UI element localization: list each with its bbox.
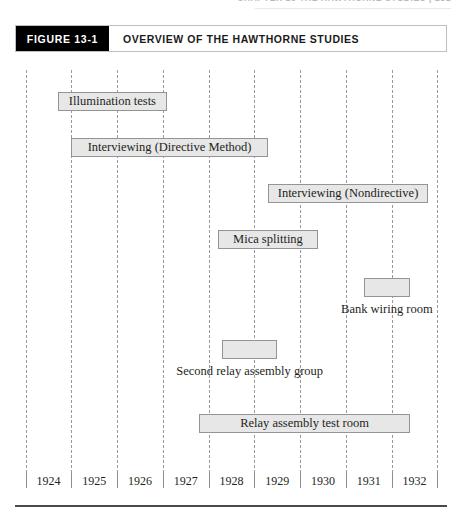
timeline-bar: [364, 278, 410, 297]
timeline-bar: Mica splitting: [218, 230, 319, 249]
timeline-bar-label: Second relay assembly group: [110, 365, 390, 378]
bottom-rule: [15, 505, 447, 507]
timeline-bar: Illumination tests: [58, 92, 168, 111]
axis-year-label: 1931: [346, 474, 392, 488]
axis-year-label: 1928: [209, 474, 255, 488]
figure-number-tag: FIGURE 13-1: [16, 26, 109, 51]
timeline-bar: Relay assembly test room: [199, 414, 409, 433]
page-running-header-text: CHAPTER 13 THE HAWTHORNE STUDIES | 281: [237, 0, 451, 3]
year-axis: 192419251926192719281929193019311932: [0, 473, 465, 491]
timeline-bar: [222, 340, 277, 359]
figure-title: OVERVIEW OF THE HAWTHORNE STUDIES: [109, 26, 446, 51]
axis-year-label: 1926: [117, 474, 163, 488]
timeline-bar-label: Relay assembly test room: [240, 417, 369, 430]
timeline-bar-label: Illumination tests: [69, 95, 156, 108]
chart-bars: Illumination testsInterviewing (Directiv…: [0, 70, 465, 495]
timeline-chart: Illumination testsInterviewing (Directiv…: [0, 70, 465, 495]
axis-year-label: 1927: [163, 474, 209, 488]
timeline-bar-label: Interviewing (Directive Method): [88, 141, 252, 154]
axis-year-label: 1929: [254, 474, 300, 488]
axis-year-label: 1924: [26, 474, 72, 488]
axis-year-label: 1925: [71, 474, 117, 488]
axis-year-label: 1932: [392, 474, 438, 488]
timeline-bar-label: Interviewing (Nondirective): [278, 187, 419, 200]
timeline-bar: Interviewing (Nondirective): [268, 184, 428, 203]
timeline-bar-label: Bank wiring room: [247, 303, 465, 316]
axis-year-label: 1930: [300, 474, 346, 488]
figure-caption-bar: FIGURE 13-1 OVERVIEW OF THE HAWTHORNE ST…: [15, 25, 447, 52]
page-header-rule: [255, 8, 451, 9]
timeline-bar-label: Mica splitting: [233, 233, 303, 246]
timeline-bar: Interviewing (Directive Method): [71, 138, 268, 157]
axis-tick: [437, 473, 438, 488]
